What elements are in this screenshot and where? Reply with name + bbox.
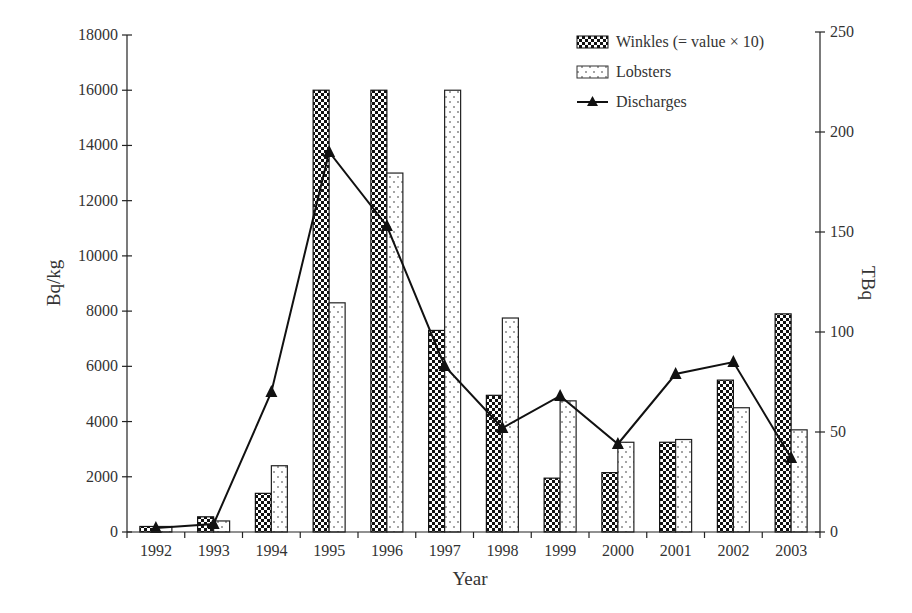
y-tick-label: 4000 (86, 413, 118, 430)
y2-tick-label: 50 (830, 423, 846, 440)
triangle-marker-icon (265, 385, 277, 397)
discharges-line (150, 145, 797, 533)
bar-winkles-2001 (660, 442, 676, 532)
y-tick-label: 18000 (78, 26, 118, 43)
x-tick-label: 1994 (255, 542, 287, 559)
y-tick-label: 12000 (78, 192, 118, 209)
bar-lobsters-1997 (445, 90, 461, 532)
y-tick-label: 6000 (86, 357, 118, 374)
bar-lobsters-1994 (271, 466, 287, 532)
x-tick-label: 2001 (660, 542, 692, 559)
bar-winkles-1999 (544, 478, 560, 532)
bar-winkles-1994 (255, 493, 271, 532)
discharges-polyline (156, 152, 791, 528)
x-tick-label: 2003 (775, 542, 807, 559)
bar-winkles-1996 (371, 90, 387, 532)
y-tick-label: 16000 (78, 81, 118, 98)
chart-canvas: 0200040006000800010000120001400016000180… (0, 0, 912, 613)
bar-lobsters-1999 (560, 401, 576, 532)
triangle-marker-icon (554, 389, 566, 401)
x-tick-label: 2000 (602, 542, 634, 559)
bar-winkles-1998 (486, 395, 502, 532)
x-axis-title: Year (452, 568, 488, 589)
bar-winkles-2000 (602, 473, 618, 532)
y-axis-title: Bq/kg (43, 259, 64, 306)
y-tick-label: 2000 (86, 468, 118, 485)
y-tick-label: 8000 (86, 302, 118, 319)
y-tick-label: 0 (110, 523, 118, 540)
bar-lobsters-1998 (502, 318, 518, 532)
x-tick-label: 1997 (429, 542, 461, 559)
bar-winkles-2002 (717, 380, 733, 532)
x-tick-label: 1998 (486, 542, 518, 559)
legend: Winkles (= value × 10) Lobsters Discharg… (577, 33, 764, 111)
legend-swatch-lobsters (577, 66, 608, 78)
x-tick-label: 1996 (371, 542, 403, 559)
y2-tick-label: 200 (830, 123, 854, 140)
legend-label-winkles: Winkles (= value × 10) (616, 33, 764, 51)
legend-label-discharges: Discharges (616, 93, 687, 111)
bar-lobsters-2000 (618, 442, 634, 532)
y-tick-label: 14000 (78, 136, 118, 153)
x-tick-label: 1992 (140, 542, 172, 559)
y-tick-label: 10000 (78, 247, 118, 264)
y2-tick-label: 250 (830, 23, 854, 40)
y2-tick-label: 150 (830, 223, 854, 240)
triangle-marker-icon (727, 355, 739, 367)
legend-swatch-winkles (577, 36, 608, 48)
legend-label-lobsters: Lobsters (616, 63, 671, 80)
x-tick-label: 1995 (313, 542, 345, 559)
x-tick-label: 1999 (544, 542, 576, 559)
bar-winkles-2003 (775, 314, 791, 532)
y2-tick-label: 100 (830, 323, 854, 340)
y2-tick-label: 0 (830, 523, 838, 540)
bar-lobsters-2002 (733, 408, 749, 532)
bar-lobsters-2001 (676, 440, 692, 532)
bar-lobsters-1995 (329, 303, 345, 532)
y2-axis-title: TBq (858, 266, 879, 300)
bar-lobsters-2003 (791, 430, 807, 532)
x-tick-label: 2002 (717, 542, 749, 559)
x-tick-label: 1993 (198, 542, 230, 559)
